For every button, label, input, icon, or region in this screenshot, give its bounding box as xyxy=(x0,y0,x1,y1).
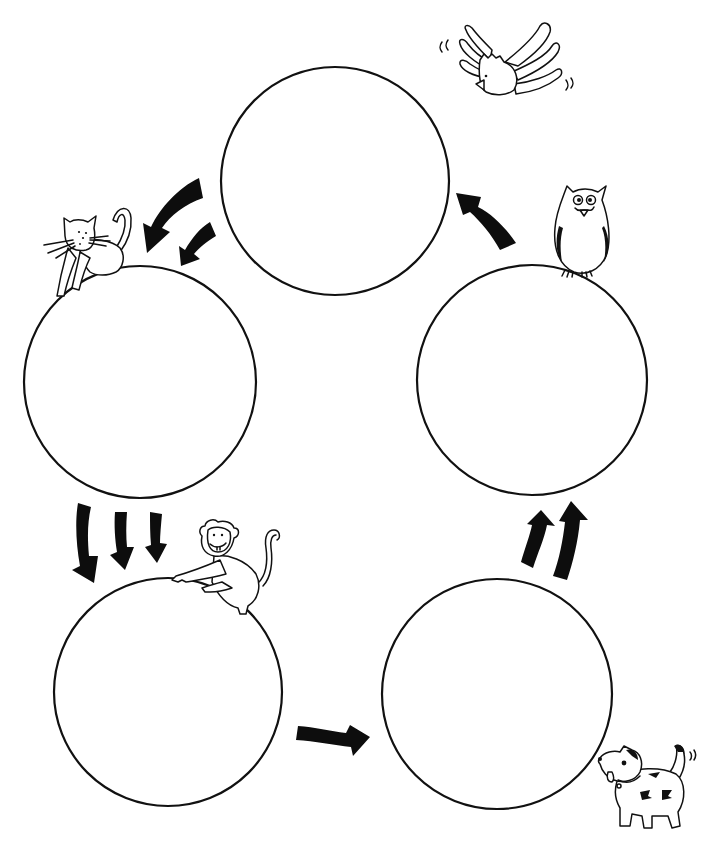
flying-bird-icon xyxy=(440,23,573,95)
circle-left[interactable] xyxy=(24,266,256,498)
cycle-diagram xyxy=(0,0,718,860)
owl-icon xyxy=(555,186,609,277)
curved-arrow-down-icon xyxy=(72,503,98,583)
arrow-group-right-to-top xyxy=(456,193,516,250)
curved-arrow-up-icon xyxy=(521,510,555,568)
curved-arrow-right-icon xyxy=(296,725,370,756)
arrow-down-icon xyxy=(145,512,167,563)
circle-bottom-right[interactable] xyxy=(382,579,612,809)
arrow-group-top-to-left xyxy=(143,178,216,266)
curved-arrow-up-icon xyxy=(553,501,588,580)
circle-bottom-left[interactable] xyxy=(54,578,282,806)
circle-right[interactable] xyxy=(417,265,647,495)
arrow-group-bottom-left-to-bottom-right xyxy=(296,725,370,756)
circle-top[interactable] xyxy=(221,67,449,295)
curved-arrow-up-left-icon xyxy=(456,193,516,250)
dog-icon xyxy=(598,744,696,828)
arrow-group-left-to-bottom-left xyxy=(72,503,167,583)
arrow-down-icon xyxy=(110,512,134,570)
arrow-group-bottom-right-to-right xyxy=(521,501,588,580)
curved-arrow-icon xyxy=(179,222,216,266)
